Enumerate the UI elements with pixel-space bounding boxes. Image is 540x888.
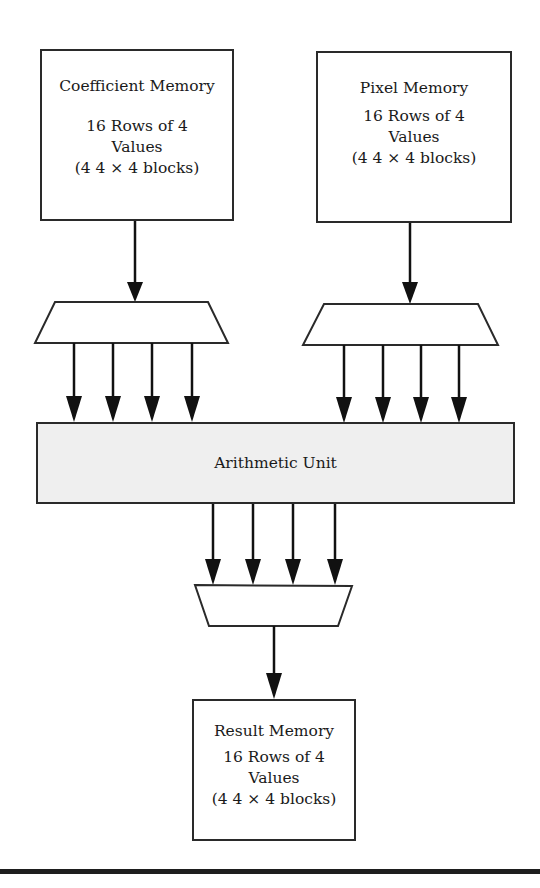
result-memory-title: Result Memory (194, 721, 354, 741)
coefficient-memory-line3: (4 4 × 4 blocks) (42, 158, 232, 179)
right-demux-trapezoid (303, 304, 498, 345)
mux-to-result-arrow (266, 626, 282, 699)
left-demux-output-arrows (74, 343, 192, 398)
left-demux-trapezoid (35, 302, 228, 343)
result-memory-line1: 16 Rows of 4 (194, 747, 354, 768)
output-mux-trapezoid (195, 585, 352, 626)
pixel-memory-line3: (4 4 × 4 blocks) (318, 148, 510, 169)
bottom-rule-divider (0, 869, 540, 874)
arithmetic-unit-label: Arithmetic Unit (38, 454, 513, 472)
result-memory-line3: (4 4 × 4 blocks) (194, 789, 354, 810)
coefficient-memory-block: Coefficient Memory 16 Rows of 4 Values (… (40, 49, 234, 221)
right-demux-output-arrows (344, 345, 459, 399)
pixel-memory-block: Pixel Memory 16 Rows of 4 Values (4 4 × … (316, 51, 512, 223)
mux-input-arrowheads (205, 559, 343, 585)
pixel-memory-title: Pixel Memory (318, 78, 510, 98)
coefficient-memory-line1: 16 Rows of 4 (42, 116, 232, 137)
pixel-memory-line1: 16 Rows of 4 (318, 106, 510, 127)
result-memory-block: Result Memory 16 Rows of 4 Values (4 4 ×… (192, 699, 356, 841)
coefficient-memory-title: Coefficient Memory (42, 76, 232, 96)
pixel-to-demux-arrow (402, 223, 418, 304)
arithmetic-unit-block: Arithmetic Unit (36, 422, 515, 504)
coef-to-demux-arrow (127, 221, 143, 302)
pixel-memory-line2: Values (318, 127, 510, 148)
right-arrowheads (336, 397, 467, 423)
coefficient-memory-line2: Values (42, 137, 232, 158)
result-memory-line2: Values (194, 768, 354, 789)
left-arrowheads (66, 396, 200, 422)
arith-output-arrows (213, 504, 335, 562)
